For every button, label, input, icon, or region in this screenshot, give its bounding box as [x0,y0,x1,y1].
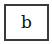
letter-box: b [4,4,49,41]
box-label: b [21,14,32,31]
